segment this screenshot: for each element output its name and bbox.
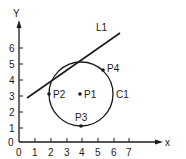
y-axis-label: Y (13, 8, 20, 19)
y-tick-label-2: 2 (9, 107, 15, 118)
point-p2-dot-icon (47, 92, 51, 96)
x-tick-label-0: 0 (16, 147, 22, 158)
line-l1-label: L1 (96, 22, 108, 33)
x-tick-label-7: 7 (126, 147, 132, 158)
y-tick-label-1: 1 (9, 123, 15, 134)
point-p1-dot-icon (78, 92, 82, 96)
x-tick-label-6: 6 (111, 147, 117, 158)
y-tick-label-0: 0 (8, 137, 14, 148)
y-axis-arrowhead-icon (17, 20, 22, 28)
x-tick-label-3: 3 (64, 147, 70, 158)
x-tick-label-2: 2 (48, 147, 54, 158)
point-p3-label: P3 (75, 112, 88, 123)
point-p3-dot-icon (79, 124, 83, 128)
point-p2-label: P2 (53, 89, 66, 100)
point-p4-dot-icon (101, 68, 105, 72)
point-p4-label: P4 (107, 63, 120, 74)
axes (19, 24, 158, 142)
x-tick-label-5: 5 (95, 147, 101, 158)
y-tick-label-6: 6 (9, 43, 15, 54)
y-tick-label-5: 5 (9, 59, 15, 70)
point-p1-label: P1 (84, 89, 97, 100)
x-axis-arrowhead-icon (155, 140, 163, 145)
x-tick-label-1: 1 (32, 147, 38, 158)
circle-c1-label: C1 (116, 89, 129, 100)
x-tick-label-4: 4 (79, 147, 85, 158)
x-axis-label: x (165, 137, 170, 148)
y-tick-label-3: 3 (9, 91, 15, 102)
geometry-diagram: Y x 0 1 2 3 4 5 6 0 1 2 3 4 5 6 7 C1 L1 … (0, 0, 186, 159)
y-tick-label-4: 4 (9, 75, 15, 86)
